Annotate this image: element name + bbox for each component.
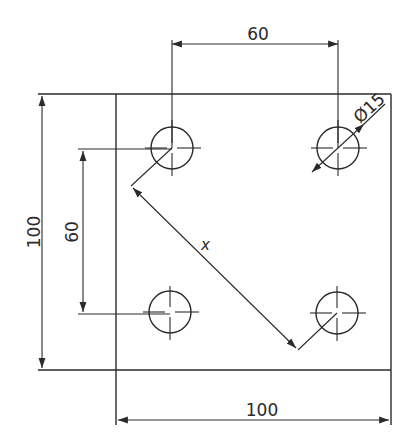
plate-height-label: 100 (24, 216, 44, 248)
hole-top-left (145, 120, 201, 176)
vertical-spacing-label: 60 (62, 221, 82, 243)
diagonal-dimension: x (131, 148, 337, 350)
top-hole-spacing-dimension: 60 (172, 24, 338, 148)
hole-bottom-right (310, 286, 366, 341)
diagonal-label: x (200, 236, 210, 254)
plate-width-label: 100 (246, 400, 278, 420)
vertical-hole-spacing-dimension: 60 (62, 149, 172, 314)
plate-width-dimension: 100 (118, 400, 389, 420)
plate-drawing: 60 100 60 100 Ø15 (0, 0, 414, 441)
plate-height-dimension: 100 (24, 96, 44, 368)
hole-bottom-left (143, 286, 199, 340)
top-spacing-label: 60 (247, 24, 269, 44)
